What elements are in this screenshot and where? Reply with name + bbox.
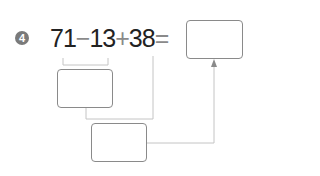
answer-box[interactable]	[186, 20, 243, 59]
step2-box[interactable]	[91, 123, 147, 162]
arrow-up-icon	[211, 59, 217, 67]
step1-box[interactable]	[57, 69, 113, 108]
